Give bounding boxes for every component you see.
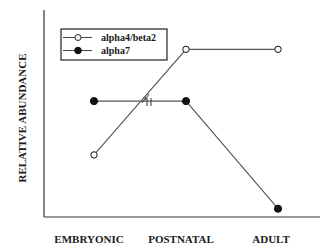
filled-circle-marker-postnatal (182, 97, 189, 104)
open-circle-marker-postnatal (183, 46, 189, 52)
x-tick-label-adult: ADULT (252, 233, 290, 245)
series-layer (90, 46, 281, 212)
y-axis-title: RELATIVE ABUNDANCE (16, 53, 28, 182)
series-line-alpha7 (94, 101, 278, 209)
filled-circle-marker-adult (274, 205, 281, 212)
filled-circle-marker-embryonic (90, 97, 97, 104)
x-tick-label-embryonic: EMBRYONIC (54, 233, 123, 245)
line-chart: RELATIVE ABUNDANCE EMBRYONIC POSTNATAL A… (0, 0, 331, 251)
open-circle-icon (75, 35, 81, 41)
x-tick-label-postnatal: POSTNATAL (148, 233, 214, 245)
legend-label-alpha4-beta2: alpha4/beta2 (101, 32, 156, 43)
legend-label-alpha7: alpha7 (101, 45, 130, 56)
filled-circle-icon (75, 47, 82, 54)
axis-break-marks (142, 94, 151, 106)
open-circle-marker-adult (275, 46, 281, 52)
open-circle-marker-embryonic (91, 152, 97, 158)
legend: alpha4/beta2 alpha7 (61, 29, 167, 60)
